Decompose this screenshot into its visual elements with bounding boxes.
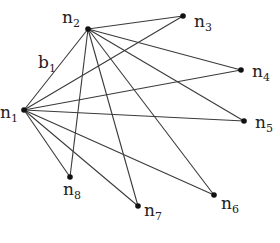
edge-n2-n8 xyxy=(70,29,88,177)
edge-n2-n7 xyxy=(88,29,138,206)
node-label-n2: n2 xyxy=(62,7,80,30)
labels-group: b1n1n2n3n4n5n6n7n8 xyxy=(0,7,273,223)
edge-label-n1-n2: b1 xyxy=(38,52,56,75)
node-n6 xyxy=(211,192,217,198)
edge-n1-n4 xyxy=(24,70,241,110)
node-label-n4: n4 xyxy=(252,61,270,84)
node-n2 xyxy=(85,26,91,32)
edge-n1-n2 xyxy=(24,29,88,110)
edge-n1-n5 xyxy=(24,110,244,121)
node-n7 xyxy=(135,203,141,209)
edge-n1-n7 xyxy=(24,110,138,206)
node-n3 xyxy=(180,13,186,19)
node-label-n7: n7 xyxy=(144,200,162,223)
edge-n2-n4 xyxy=(88,29,241,70)
edges-group xyxy=(24,16,244,206)
edge-n2-n3 xyxy=(88,16,183,29)
node-label-n5: n5 xyxy=(255,112,273,135)
nodes-group xyxy=(21,13,247,209)
edge-n2-n6 xyxy=(88,29,214,195)
node-n1 xyxy=(21,107,27,113)
edge-n1-n6 xyxy=(24,110,214,195)
node-n5 xyxy=(241,118,247,124)
node-label-n6: n6 xyxy=(221,193,239,216)
node-label-n8: n8 xyxy=(63,179,81,202)
node-label-n1: n1 xyxy=(0,102,18,125)
node-label-n3: n3 xyxy=(194,11,212,34)
edge-n2-n5 xyxy=(88,29,244,121)
graph-diagram: b1n1n2n3n4n5n6n7n8 xyxy=(0,0,280,243)
node-n4 xyxy=(238,67,244,73)
